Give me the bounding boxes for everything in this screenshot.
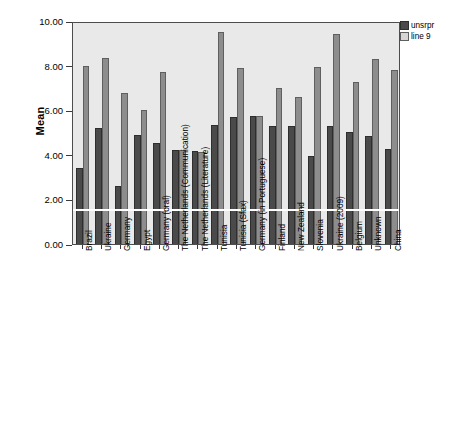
legend-swatch <box>400 32 409 41</box>
y-axis-tick: 10.00 <box>0 16 72 28</box>
bar-unsrpr <box>269 126 276 244</box>
x-axis-tick-label: Tunisia <box>220 225 229 251</box>
bar-line-9 <box>83 66 90 244</box>
x-axis-tick-label: The Netherlands (Communication) <box>181 124 190 251</box>
legend-label: unsrpr <box>411 21 434 30</box>
x-axis-tick-label: Germany (in Portuguese) <box>258 158 267 251</box>
bar-group <box>112 23 131 244</box>
x-axis-tick-label: Germany (oral) <box>162 195 171 251</box>
x-axis-tick-mark <box>332 245 333 249</box>
x-axis-tick-mark <box>159 245 160 249</box>
bar-unsrpr <box>192 151 199 244</box>
x-axis-tick-label: Finland <box>278 224 287 251</box>
bar-line-9 <box>276 88 283 244</box>
legend-entry: line 9 <box>400 31 460 41</box>
x-axis-tick-label: Germany <box>123 217 132 251</box>
x-axis-tick-mark <box>352 245 353 249</box>
y-axis-tick-label: 0.00 <box>45 239 64 251</box>
x-axis-tick-mark <box>197 245 198 249</box>
bar-unsrpr <box>153 143 160 244</box>
bar-line-9 <box>102 58 109 244</box>
bar-group <box>343 23 362 244</box>
bar-line-9 <box>314 67 321 244</box>
bar-unsrpr <box>385 149 392 244</box>
x-axis-tick-label: Unknown <box>374 216 383 251</box>
y-axis-tick: 2.00 <box>0 194 72 206</box>
bar-group <box>208 23 227 244</box>
x-axis-tick-mark <box>275 245 276 249</box>
bar-unsrpr <box>76 168 83 244</box>
y-axis-tick-label: 8.00 <box>45 61 64 73</box>
bar-unsrpr <box>327 126 334 244</box>
y-axis-tick-label: 6.00 <box>45 105 64 117</box>
bar-unsrpr <box>172 150 179 244</box>
bar-unsrpr <box>250 116 257 244</box>
y-axis-tick-label: 10.00 <box>39 16 63 28</box>
x-axis-tick-mark <box>294 245 295 249</box>
y-axis-tick: 6.00 <box>0 105 72 117</box>
bar-group <box>92 23 111 244</box>
y-axis-tick: 8.00 <box>0 61 72 73</box>
x-axis-tick-label: China <box>394 229 403 251</box>
bar-line-9 <box>218 32 225 244</box>
bars-layer <box>73 23 399 244</box>
y-axis-tick-label: 2.00 <box>45 194 64 206</box>
x-axis-tick-label: Brazil <box>85 230 94 251</box>
bar-unsrpr <box>115 186 122 244</box>
bar-line-9 <box>353 82 360 244</box>
bar-group <box>131 23 150 244</box>
y-axis-tick: 4.00 <box>0 150 72 162</box>
bar-unsrpr <box>365 136 372 244</box>
bar-unsrpr <box>308 156 315 244</box>
x-axis-tick-mark <box>101 245 102 249</box>
bar-unsrpr <box>134 135 141 244</box>
x-axis-tick-label: The Netherlands (Literature) <box>201 147 210 251</box>
x-axis-tick-mark <box>371 245 372 249</box>
y-axis-tick: 0.00 <box>0 239 72 251</box>
reference-line <box>73 209 399 210</box>
x-axis: BrazilUkraineGermanyEgyptGermany (oral)T… <box>72 245 400 421</box>
y-axis: 10.008.006.004.002.000.00 <box>0 0 72 421</box>
bar-group <box>362 23 381 244</box>
bar-group <box>266 23 285 244</box>
bar-line-9 <box>141 110 148 244</box>
y-axis-tick-label: 4.00 <box>45 150 64 162</box>
x-axis-tick-label: Ukraine (2009) <box>336 196 345 251</box>
legend-swatch <box>400 21 409 30</box>
bar-group <box>305 23 324 244</box>
x-axis-tick-label: New Zealand <box>297 202 306 251</box>
legend-label: line 9 <box>411 32 431 41</box>
x-axis-tick-label: Egypt <box>143 230 152 251</box>
bar-unsrpr <box>346 132 353 244</box>
x-axis-tick-mark <box>236 245 237 249</box>
bar-unsrpr <box>211 125 218 244</box>
x-axis-tick-mark <box>82 245 83 249</box>
bar-chart: Mean 10.008.006.004.002.000.00 BrazilUkr… <box>0 0 460 421</box>
legend-entry: unsrpr <box>400 20 460 30</box>
x-axis-tick-mark <box>178 245 179 249</box>
bar-group <box>382 23 400 244</box>
x-axis-tick-mark <box>390 245 391 249</box>
bar-unsrpr <box>230 117 237 244</box>
x-axis-tick-label: Belgium <box>355 221 364 251</box>
bar-group <box>73 23 92 244</box>
bar-line-9 <box>391 70 398 244</box>
x-axis-tick-label: Ukraine <box>104 222 113 251</box>
x-axis-tick-mark <box>217 245 218 249</box>
bar-unsrpr <box>288 126 295 244</box>
x-axis-tick-label: Slovenia <box>316 219 325 251</box>
plot-area <box>72 22 400 245</box>
chart-legend: unsrprline 9 <box>400 20 460 42</box>
x-axis-tick-label: Tunisia (Sfax) <box>239 200 248 251</box>
bar-unsrpr <box>95 128 102 244</box>
x-axis-tick-mark <box>140 245 141 249</box>
